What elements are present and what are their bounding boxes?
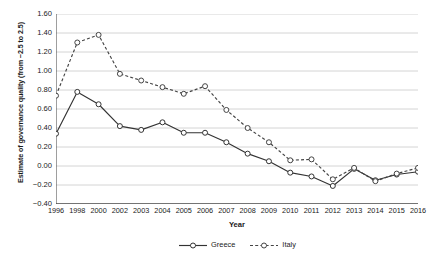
y-axis-tick-labels: 1.601.401.201.000.800.600.400.200.00−0.2… bbox=[14, 14, 52, 204]
data-point bbox=[309, 174, 314, 179]
plot-area bbox=[56, 14, 418, 204]
y-tick-label: 0.60 bbox=[18, 105, 52, 113]
data-point bbox=[416, 165, 419, 170]
data-point bbox=[352, 165, 357, 170]
data-point bbox=[96, 32, 101, 37]
data-point bbox=[245, 151, 250, 156]
legend-swatch-greece bbox=[178, 241, 208, 250]
series-line bbox=[56, 92, 418, 186]
data-point bbox=[117, 71, 122, 76]
data-point bbox=[56, 93, 59, 98]
y-tick-label: 0.40 bbox=[18, 124, 52, 132]
data-point bbox=[288, 158, 293, 163]
data-point bbox=[266, 140, 271, 145]
legend-marker-icon bbox=[191, 243, 196, 248]
data-point bbox=[96, 102, 101, 107]
y-tick-label: 0.20 bbox=[18, 143, 52, 151]
data-point bbox=[394, 171, 399, 176]
data-point bbox=[288, 170, 293, 175]
data-point bbox=[245, 126, 250, 131]
y-tick-label: 1.60 bbox=[18, 10, 52, 18]
data-point bbox=[139, 127, 144, 132]
legend-marker-icon bbox=[262, 243, 267, 248]
data-point bbox=[75, 40, 80, 45]
data-point bbox=[139, 78, 144, 83]
data-point bbox=[309, 157, 314, 162]
data-point bbox=[181, 130, 186, 135]
data-point bbox=[117, 124, 122, 129]
legend-swatch-italy bbox=[249, 241, 279, 250]
data-point bbox=[160, 120, 165, 125]
data-point bbox=[75, 89, 80, 94]
y-tick-label: −0.20 bbox=[18, 181, 52, 189]
legend-item-italy[interactable]: Italy bbox=[249, 240, 296, 250]
data-point bbox=[266, 159, 271, 164]
series-italy bbox=[56, 32, 418, 183]
legend-item-greece[interactable]: Greece bbox=[178, 240, 235, 250]
gridlines bbox=[56, 14, 418, 204]
data-point bbox=[224, 107, 229, 112]
legend-label: Italy bbox=[282, 240, 296, 250]
data-point bbox=[373, 179, 378, 184]
series-line bbox=[56, 35, 418, 181]
data-point bbox=[181, 91, 186, 96]
chart-legend: GreeceItaly bbox=[56, 238, 418, 252]
data-point bbox=[160, 85, 165, 90]
data-series-layer bbox=[56, 32, 418, 188]
data-point bbox=[203, 84, 208, 89]
y-tick-label: 1.00 bbox=[18, 67, 52, 75]
y-tick-label: 1.40 bbox=[18, 29, 52, 37]
legend-label: Greece bbox=[211, 240, 235, 250]
data-point bbox=[203, 130, 208, 135]
chart-figure: Estimate of governance quality (from −2.… bbox=[0, 0, 434, 262]
x-axis-tick-labels: 1996199820002002200320042005200620072008… bbox=[56, 206, 418, 218]
x-tick-label: 2016 bbox=[403, 206, 433, 216]
y-tick-label: 0.00 bbox=[18, 162, 52, 170]
y-tick-label: 1.20 bbox=[18, 48, 52, 56]
data-point bbox=[330, 177, 335, 182]
data-point bbox=[56, 131, 59, 136]
data-point bbox=[224, 140, 229, 145]
data-point bbox=[330, 183, 335, 188]
y-tick-label: 0.80 bbox=[18, 86, 52, 94]
plot-svg bbox=[56, 14, 418, 204]
x-axis-title: Year bbox=[56, 220, 418, 229]
